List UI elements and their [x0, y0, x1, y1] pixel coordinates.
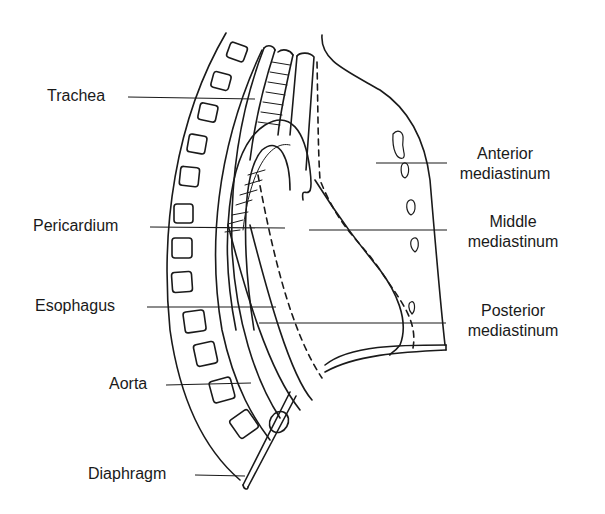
label-aorta: Aorta — [109, 374, 147, 394]
heart-posterior — [315, 180, 403, 355]
label-posterior-mediastinum: Posterior mediastinum — [448, 301, 578, 341]
label-posterior-line1: Posterior — [448, 301, 578, 321]
label-middle-line1: Middle — [448, 212, 578, 232]
anatomy-drawing — [0, 0, 605, 514]
pericardium-dashed — [258, 175, 322, 378]
label-anterior-line1: Anterior — [440, 144, 570, 164]
spine-inner-edge — [216, 50, 270, 440]
great-vessel — [297, 53, 314, 170]
leader-lines — [128, 97, 447, 476]
anterior-spots — [393, 131, 418, 314]
label-anterior-line2: mediastinum — [440, 164, 570, 184]
label-esophagus: Esophagus — [35, 296, 115, 316]
aortic-arch-inner — [246, 146, 290, 330]
spine-outer-edge — [167, 33, 240, 480]
label-trachea: Trachea — [47, 86, 105, 106]
label-pericardium: Pericardium — [33, 216, 118, 236]
heart-boundary — [322, 35, 445, 345]
esophagus-top — [264, 46, 275, 50]
leader-pericardium — [150, 227, 285, 228]
aorta-inner — [250, 225, 312, 400]
leader-diaphragm — [195, 475, 245, 476]
label-anterior-mediastinum: Anterior mediastinum — [440, 144, 570, 184]
label-posterior-line2: mediastinum — [448, 321, 578, 341]
label-middle-line2: mediastinum — [448, 232, 578, 252]
label-diaphragm: Diaphragm — [88, 464, 166, 484]
leader-trachea — [128, 97, 255, 99]
label-middle-mediastinum: Middle mediastinum — [448, 212, 578, 252]
diaphragm-lower — [325, 350, 446, 372]
aorta-outer — [228, 225, 300, 410]
mediastinum-diagram: Trachea Pericardium Esophagus Aorta Diap… — [0, 0, 605, 514]
diaphragm-posterior — [243, 392, 290, 485]
